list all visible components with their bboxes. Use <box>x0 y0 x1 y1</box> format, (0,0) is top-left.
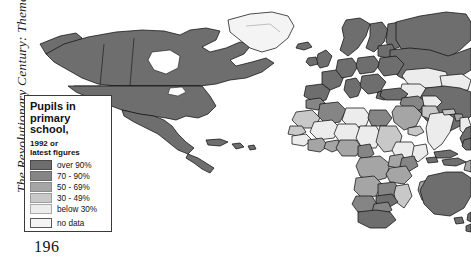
legend-swatch-below-30 <box>30 204 52 214</box>
legend-entry: 70 - 90% <box>30 171 107 182</box>
legend-swatch-30-49 <box>30 193 52 203</box>
legend-title-line-3: school, <box>30 124 107 136</box>
legend-entry: no data <box>30 218 107 229</box>
map-legend: Pupils in primary school, 1992 or latest… <box>24 95 112 232</box>
legend-subtitle-line-2: latest figures <box>30 148 107 157</box>
legend-label-over-90: over 90% <box>57 161 92 170</box>
legend-label-no-data: no data <box>57 219 84 228</box>
legend-swatch-over-90 <box>30 160 52 170</box>
legend-title: Pupils in primary school, <box>30 101 107 136</box>
legend-swatch-50-69 <box>30 182 52 192</box>
legend-title-line-1: Pupils in <box>30 101 107 113</box>
page-number: 196 <box>34 238 60 256</box>
legend-subtitle: 1992 or latest figures <box>30 139 107 157</box>
legend-swatch-no-data <box>30 218 52 228</box>
legend-entry: below 30% <box>30 204 107 215</box>
legend-label-below-30: below 30% <box>57 205 97 214</box>
book-page: The Revolutionary Century: Themes .c90{f… <box>0 0 471 261</box>
legend-swatch-70-90 <box>30 171 52 181</box>
legend-entry: 30 - 49% <box>30 193 107 204</box>
legend-entry: 50 - 69% <box>30 182 107 193</box>
legend-entry: over 90% <box>30 160 107 171</box>
legend-subtitle-line-1: 1992 or <box>30 139 107 148</box>
legend-label-50-69: 50 - 69% <box>57 183 90 192</box>
legend-label-70-90: 70 - 90% <box>57 172 90 181</box>
legend-label-30-49: 30 - 49% <box>57 194 90 203</box>
legend-entries: over 90% 70 - 90% 50 - 69% 30 - 49% belo… <box>30 160 107 229</box>
